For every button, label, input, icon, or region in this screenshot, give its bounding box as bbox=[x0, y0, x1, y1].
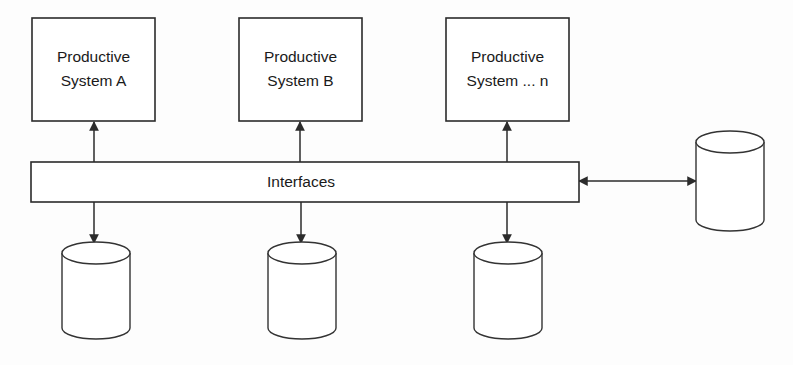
database-3-cylinder-top[interactable] bbox=[474, 242, 542, 264]
node-productive-system-a[interactable]: Productive System A bbox=[32, 18, 155, 121]
productive-system-b-label-line1: Productive bbox=[264, 48, 337, 65]
database-2-cylinder-body[interactable] bbox=[268, 253, 336, 339]
productive-system-b-label-line2: System B bbox=[267, 72, 333, 89]
productive-system-n-label-line1: Productive bbox=[471, 48, 544, 65]
diagram-canvas: Productive System A Productive System B … bbox=[0, 0, 793, 365]
productive-system-a-label-line2: System A bbox=[61, 72, 127, 89]
productive-system-n-label-line2: System ... n bbox=[467, 72, 549, 89]
database-2-cylinder-top[interactable] bbox=[268, 242, 336, 264]
node-productive-system-n[interactable]: Productive System ... n bbox=[446, 18, 569, 121]
node-database-3[interactable] bbox=[474, 242, 542, 339]
database-external-cylinder-body[interactable] bbox=[696, 142, 764, 231]
database-external-cylinder-top[interactable] bbox=[696, 131, 764, 153]
productive-system-a-box[interactable] bbox=[32, 18, 155, 121]
node-productive-system-b[interactable]: Productive System B bbox=[239, 18, 362, 121]
node-database-external[interactable] bbox=[696, 131, 764, 231]
system-architecture-diagram: Productive System A Productive System B … bbox=[0, 0, 793, 365]
node-database-2[interactable] bbox=[268, 242, 336, 339]
database-1-cylinder-body[interactable] bbox=[62, 253, 130, 339]
productive-system-b-box[interactable] bbox=[239, 18, 362, 121]
productive-system-n-box[interactable] bbox=[446, 18, 569, 121]
productive-system-a-label-line1: Productive bbox=[57, 48, 130, 65]
interfaces-bar-label: Interfaces bbox=[267, 173, 335, 190]
database-1-cylinder-top[interactable] bbox=[62, 242, 130, 264]
node-database-1[interactable] bbox=[62, 242, 130, 339]
database-3-cylinder-body[interactable] bbox=[474, 253, 542, 339]
node-interfaces-bar[interactable]: Interfaces bbox=[31, 162, 579, 202]
